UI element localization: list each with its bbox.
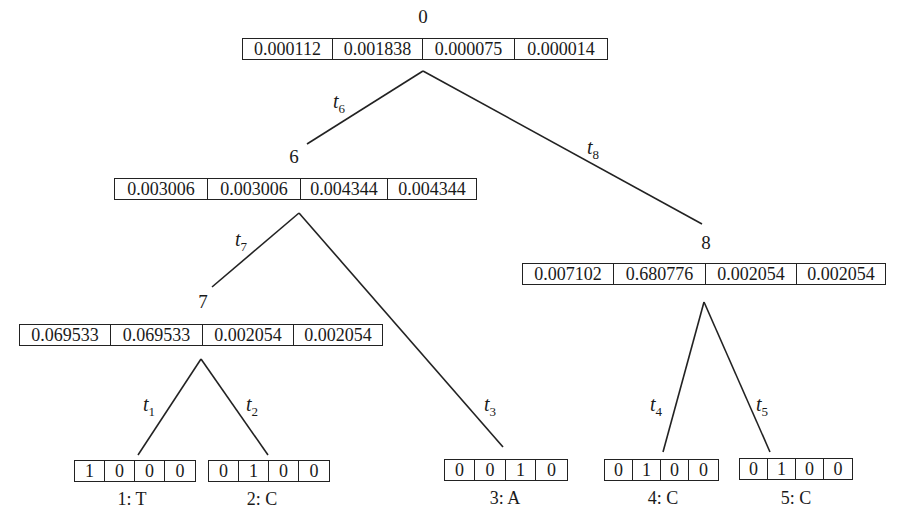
leaf-vector-2: 0 1 0 0 [208, 460, 330, 482]
likelihood-vector-node-8: 0.007102 0.680776 0.002054 0.002054 [522, 263, 886, 285]
edge-label-t4: t4 [650, 393, 662, 420]
vector-cell: 0 [445, 460, 475, 480]
vector-cell: 0.069533 [111, 325, 203, 345]
vector-cell: 1 [768, 459, 796, 479]
vector-cell: 0 [105, 461, 135, 481]
vector-cell: 0.680776 [614, 264, 706, 284]
edge-label-t5: t5 [756, 393, 768, 420]
node-label-8: 8 [686, 232, 726, 254]
likelihood-vector-node-6: 0.003006 0.003006 0.004344 0.004344 [114, 178, 477, 200]
node-label-7: 7 [183, 291, 223, 313]
leaf-name-1: 1: T [92, 489, 172, 510]
vector-cell: 0 [299, 461, 329, 481]
leaf-name-5: 5: C [756, 488, 836, 509]
leaf-vector-5: 0 1 0 0 [739, 458, 853, 480]
vector-cell: 1 [239, 461, 269, 481]
vector-cell: 0.002054 [797, 264, 885, 284]
vector-cell: 0 [796, 459, 824, 479]
vector-cell: 0 [209, 461, 239, 481]
likelihood-vector-node-7: 0.069533 0.069533 0.002054 0.002054 [19, 324, 383, 346]
vector-cell: 0.007102 [523, 264, 614, 284]
leaf-name-4: 4: C [623, 488, 703, 509]
vector-cell: 0.003006 [115, 179, 208, 199]
vector-cell: 1 [506, 460, 536, 480]
leaf-vector-4: 0 1 0 0 [604, 459, 719, 481]
edge-0-8 [423, 71, 702, 224]
leaf-name-2: 2: C [222, 489, 302, 510]
edge-8-4 [663, 302, 704, 452]
vector-cell: 0.000014 [515, 39, 607, 59]
edge-label-t6: t6 [333, 90, 345, 117]
vector-cell: 0.001838 [333, 39, 423, 59]
edge-label-t8: t8 [587, 136, 599, 163]
edge-0-6 [307, 71, 423, 144]
vector-cell: 0.000112 [243, 39, 333, 59]
vector-cell: 0 [689, 460, 718, 480]
vector-cell: 0 [269, 461, 299, 481]
vector-cell: 0.069533 [20, 325, 111, 345]
vector-cell: 0 [135, 461, 165, 481]
vector-cell: 0 [605, 460, 633, 480]
edge-label-t1: t1 [143, 393, 155, 420]
vector-cell: 0 [661, 460, 689, 480]
vector-cell: 0.002054 [203, 325, 294, 345]
leaf-name-3: 3: A [465, 488, 545, 509]
vector-cell: 0.002054 [706, 264, 797, 284]
edge-8-5 [704, 302, 770, 452]
leaf-vector-3: 0 0 1 0 [444, 459, 568, 481]
vector-cell: 1 [75, 461, 105, 481]
vector-cell: 0.000075 [423, 39, 515, 59]
likelihood-vector-node-0: 0.000112 0.001838 0.000075 0.000014 [242, 38, 608, 60]
vector-cell: 0.004344 [388, 179, 476, 199]
vector-cell: 1 [633, 460, 661, 480]
vector-cell: 0.002054 [294, 325, 382, 345]
vector-cell: 0 [740, 459, 768, 479]
edge-label-t2: t2 [246, 393, 258, 420]
vector-cell: 0 [824, 459, 852, 479]
edge-label-t7: t7 [235, 228, 247, 255]
vector-cell: 0 [165, 461, 195, 481]
edge-label-t3: t3 [484, 393, 496, 420]
node-label-0: 0 [403, 6, 443, 28]
node-label-6: 6 [274, 146, 314, 168]
vector-cell: 0.003006 [208, 179, 301, 199]
vector-cell: 0 [475, 460, 506, 480]
edge-6-7 [212, 213, 299, 287]
vector-cell: 0.004344 [301, 179, 388, 199]
leaf-vector-1: 1 0 0 0 [74, 460, 196, 482]
vector-cell: 0 [536, 460, 567, 480]
